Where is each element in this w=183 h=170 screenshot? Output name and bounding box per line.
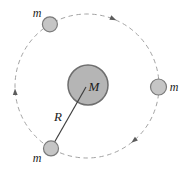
central-mass-label: M <box>88 79 101 94</box>
orbit-direction-arrow-left <box>13 88 18 95</box>
radius-label: R <box>53 109 62 124</box>
satellite-label-bottom-left: m <box>33 151 42 165</box>
satellite-mass-bottom-left <box>44 141 59 156</box>
orbit-diagram: M m m m R <box>0 0 183 170</box>
satellite-label-right: m <box>170 80 179 94</box>
orbit-figure: M m m m R <box>0 0 183 170</box>
satellite-label-top-left: m <box>33 6 42 20</box>
satellite-mass-top-left <box>42 17 57 32</box>
orbit-direction-arrow-top <box>109 15 117 22</box>
satellite-mass-right <box>151 79 167 95</box>
